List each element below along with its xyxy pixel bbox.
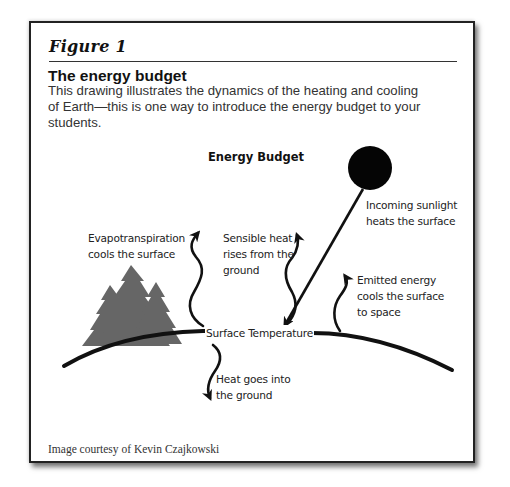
earth-curve xyxy=(312,333,452,370)
sun-icon xyxy=(348,146,392,190)
label-line: heats the surface xyxy=(366,213,457,229)
emitted-energy-label: Emitted energy cools the surface to spac… xyxy=(357,272,444,320)
incoming-sunlight-label: Incoming sunlight heats the surface xyxy=(366,197,457,229)
sensible-heat-label: Sensible heat rises from the ground xyxy=(223,230,294,278)
label-line: ground xyxy=(223,262,294,278)
label-line: cools the surface xyxy=(88,246,185,262)
earth-curve xyxy=(64,331,223,366)
label-line: cools the surface xyxy=(357,288,444,304)
label-line: Emitted energy xyxy=(357,272,444,288)
ground-heat-label: Heat goes into the ground xyxy=(216,371,291,403)
label-line: rises from the xyxy=(223,246,294,262)
label-line: Sensible heat xyxy=(223,230,294,246)
label-line: the ground xyxy=(216,387,291,403)
label-line: Evapotranspiration xyxy=(88,230,185,246)
surface-temperature-label: Surface Temperature xyxy=(205,325,314,341)
diagram-title: Energy Budget xyxy=(208,150,304,164)
evapotranspiration-label: Evapotranspiration cools the surface xyxy=(88,230,185,262)
evapotranspiration-arrow xyxy=(190,233,203,326)
label-line: to space xyxy=(357,304,444,320)
label-line: Heat goes into xyxy=(216,371,291,387)
label-line: Incoming sunlight xyxy=(366,197,457,213)
emitted-energy-arrow xyxy=(334,276,346,331)
